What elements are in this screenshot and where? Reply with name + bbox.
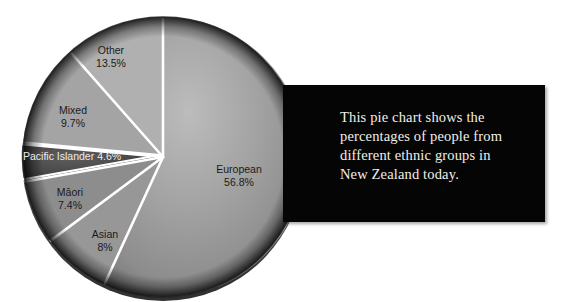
- pie-chart-figure: European 56.8% Other 13.5% Mixed 9.7% Pa…: [0, 0, 330, 302]
- pie-chart-svg: [0, 0, 330, 302]
- pie-rim-vignette: [23, 17, 303, 297]
- caption-text: This pie chart shows the percentages of …: [340, 108, 530, 184]
- caption-line-1: This pie chart shows the: [340, 108, 530, 127]
- screenshot-root: European 56.8% Other 13.5% Mixed 9.7% Pa…: [0, 0, 576, 302]
- caption-box: This pie chart shows the percentages of …: [283, 85, 545, 222]
- caption-line-4: New Zealand today.: [340, 165, 530, 184]
- caption-line-2: percentages of people from: [340, 127, 530, 146]
- caption-line-3: different ethnic groups in: [340, 146, 530, 165]
